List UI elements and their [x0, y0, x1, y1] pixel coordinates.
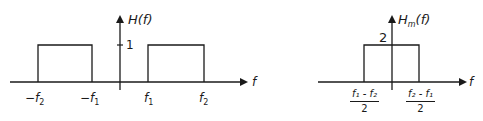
- right-x-axis-label: f: [469, 76, 473, 88]
- x-tick-f2: f2: [199, 92, 208, 107]
- x-tick-half-pos-diff: f₂ - f₁ 2: [406, 89, 435, 114]
- left-y-axis-label: H(f): [128, 13, 153, 26]
- x-tick-neg-f2: −f2: [25, 92, 44, 107]
- x-tick-neg-f1: −f1: [80, 92, 99, 107]
- left-pulse-positive: [148, 45, 204, 82]
- right-y-tick-label: 2: [379, 31, 387, 44]
- left-pulse-negative: [38, 45, 92, 82]
- x-tick-f1: f1: [144, 92, 153, 107]
- right-plot: [318, 17, 465, 90]
- right-y-axis-label: Hm(f): [398, 13, 430, 29]
- left-y-tick-label: 1: [126, 39, 134, 51]
- x-tick-half-neg-diff: f₁ - f₂ 2: [350, 89, 379, 114]
- left-plot: [10, 17, 246, 90]
- left-x-axis-label: f: [252, 76, 256, 88]
